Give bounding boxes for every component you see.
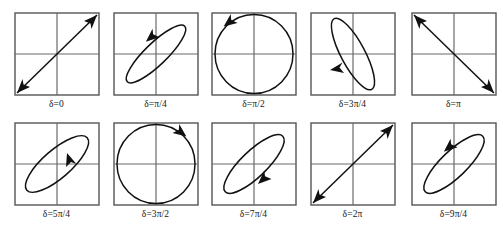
plot-frame-7 bbox=[113, 122, 199, 206]
lissajous-figure-panel-grid: δ=0 δ=π/4 bbox=[0, 0, 503, 233]
panel-label-7: δ=3π/2 bbox=[106, 208, 205, 220]
panel-row-2: δ=5π/4 δ=3π/2 bbox=[0, 116, 503, 226]
panel-delta-2pi: δ=2π bbox=[303, 116, 402, 226]
plot-frame-9 bbox=[310, 122, 396, 206]
panel-label-1: δ=0 bbox=[7, 98, 106, 110]
panel-label-6: δ=5π/4 bbox=[7, 208, 106, 220]
panel-delta-pi-over-2: δ=π/2 bbox=[204, 6, 303, 116]
panel-delta-pi-over-4: δ=π/4 bbox=[106, 6, 205, 116]
panel-label-8: δ=7π/4 bbox=[204, 208, 303, 220]
plot-frame-3 bbox=[211, 12, 297, 96]
panel-label-10: δ=9π/4 bbox=[404, 208, 503, 220]
panel-delta-3pi-over-4: δ=3π/4 bbox=[303, 6, 402, 116]
panel-label-2: δ=π/4 bbox=[106, 98, 205, 110]
plot-frame-2 bbox=[113, 12, 199, 96]
panel-label-3: δ=π/2 bbox=[204, 98, 303, 110]
plot-frame-10 bbox=[411, 122, 497, 206]
panel-delta-7pi-over-4: δ=7π/4 bbox=[204, 116, 303, 226]
panel-delta-0: δ=0 bbox=[7, 6, 106, 116]
panel-label-4: δ=3π/4 bbox=[303, 98, 402, 110]
panel-label-5: δ=π bbox=[404, 98, 503, 110]
panel-delta-9pi-over-4: δ=9π/4 bbox=[404, 116, 503, 226]
panel-row-1: δ=0 δ=π/4 bbox=[0, 6, 503, 116]
plot-frame-5 bbox=[411, 12, 497, 96]
panel-delta-3pi-over-2: δ=3π/2 bbox=[106, 116, 205, 226]
plot-frame-8 bbox=[211, 122, 297, 206]
plot-frame-4 bbox=[310, 12, 396, 96]
panel-label-9: δ=2π bbox=[303, 208, 402, 220]
plot-frame-6 bbox=[14, 122, 100, 206]
plot-frame-1 bbox=[14, 12, 100, 96]
panel-delta-5pi-over-4: δ=5π/4 bbox=[7, 116, 106, 226]
panel-delta-pi: δ=π bbox=[404, 6, 503, 116]
